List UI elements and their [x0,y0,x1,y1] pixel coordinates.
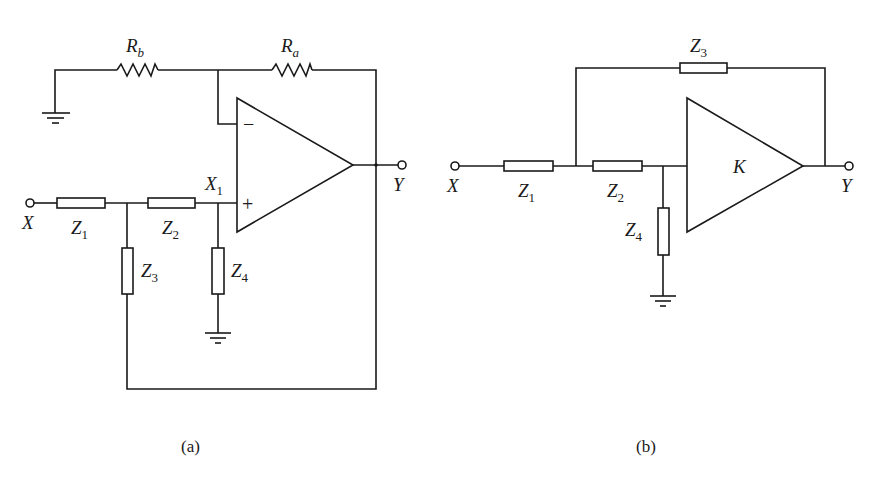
output-terminal-y [398,161,406,169]
impedance-z2-a: Z2 [148,198,195,242]
input-label-x: X [21,212,35,233]
input-label-x: X [446,175,460,196]
ground-icon [42,113,70,123]
panel-a: Rb Ra − + X Y X1 Z1 Z2 [21,35,406,456]
opamp-a: − + [237,98,353,232]
wires-b [459,68,845,296]
caption-b: (b) [636,437,656,456]
z4-label: Z4 [625,219,643,244]
wires-a [34,70,398,389]
ground-icon [205,333,231,343]
resistor-ra: Ra [272,35,312,76]
impedance-z1-a: Z1 [57,198,105,242]
amplifier-k: K [687,98,803,232]
z3-label: Z3 [690,35,707,60]
z3-label: Z3 [141,260,158,285]
z1-label: Z1 [518,180,535,205]
impedance-z1-b: Z1 [504,161,553,205]
gain-label-k: K [732,156,747,177]
resistor-rb: Rb [117,35,158,76]
opamp-minus-sign: − [243,113,254,135]
z2-label: Z2 [607,180,624,205]
rb-label: Rb [125,35,145,60]
input-terminal-x [26,199,34,207]
input-terminal-x [451,162,459,170]
output-label-y: Y [393,174,406,195]
impedance-z2-b: Z2 [593,161,642,205]
impedance-z4-a: Z4 [212,248,249,294]
ground-icon [650,296,676,306]
panel-b: K X Y Z1 Z2 Z3 Z4 [446,35,854,456]
circuit-figure: Rb Ra − + X Y X1 Z1 Z2 [0,0,873,478]
output-label-y: Y [841,175,854,196]
impedance-z3-b: Z3 [680,35,727,73]
caption-a: (a) [181,437,200,456]
impedance-z4-b: Z4 [625,208,669,255]
opamp-plus-sign: + [242,193,253,215]
output-terminal-y [845,162,853,170]
ra-label: Ra [280,35,300,60]
impedance-z3-a: Z3 [122,248,158,294]
node-label-x1: X1 [204,173,223,198]
z2-label: Z2 [162,217,179,242]
z1-label: Z1 [71,217,88,242]
junction-dot [374,163,378,167]
z4-label: Z4 [231,260,249,285]
